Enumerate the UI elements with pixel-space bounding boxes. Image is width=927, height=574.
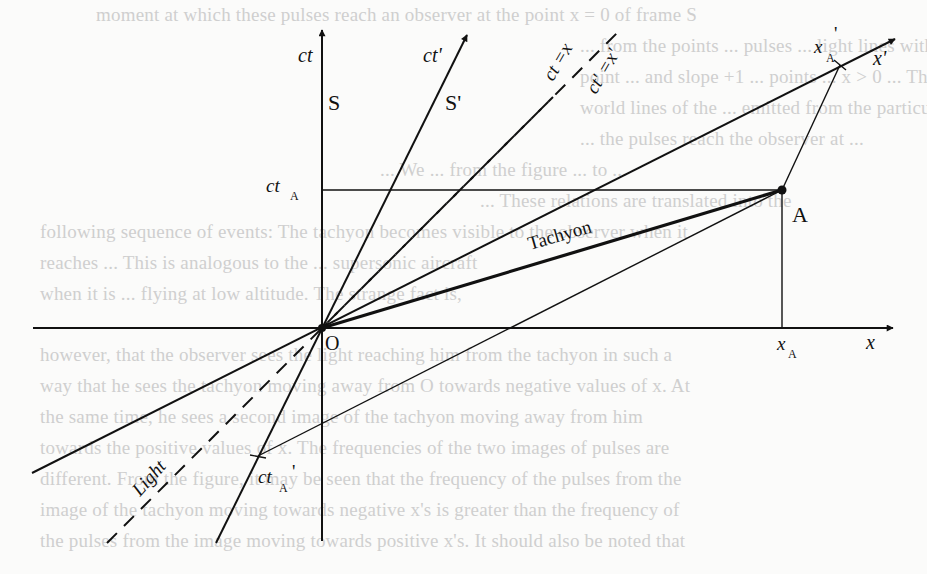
light-line-ct-equals-x-label: ct =x	[538, 39, 576, 84]
x-A-prime-projection	[782, 65, 840, 190]
light-line-ct-equals-x	[107, 97, 553, 543]
event-A-point	[778, 186, 787, 195]
origin-label: O	[325, 332, 339, 354]
x-axis-label: x	[865, 331, 875, 353]
origin-point	[318, 324, 326, 332]
ct-prime-axis-label: ct'	[423, 44, 442, 66]
spacetime-diagram: ct ct' S S' x x' O A ct A x A x A ' ct A…	[0, 0, 927, 574]
x-prime-axis	[32, 39, 895, 473]
ct-axis-label: ct	[298, 44, 313, 66]
x-A-prime-label: x	[813, 36, 823, 57]
light-line-ct-prime-equals-x-prime-label: ct' =x'	[581, 44, 624, 97]
ct-A-label: ct	[266, 175, 280, 196]
ct-prime-axis	[216, 35, 467, 543]
ct-A-prime-label: ct	[258, 466, 272, 487]
event-A-label: A	[792, 202, 808, 227]
ct-A-prime-mark: '	[292, 461, 295, 482]
ct-A-subscript: A	[290, 189, 299, 203]
x-prime-axis-label: x'	[872, 47, 887, 69]
x-A-subscript: A	[788, 347, 797, 361]
x-A-label: x	[776, 333, 786, 354]
x-A-prime-subscript: A	[826, 51, 835, 65]
ct-A-prime-subscript: A	[279, 481, 288, 495]
frame-S-label: S	[328, 90, 340, 115]
x-A-prime-mark: '	[834, 23, 837, 44]
textbook-page: moment at which these pulses reach an ob…	[0, 0, 927, 574]
light-label: Light	[127, 455, 171, 500]
frame-S-prime-label: S'	[445, 90, 461, 115]
